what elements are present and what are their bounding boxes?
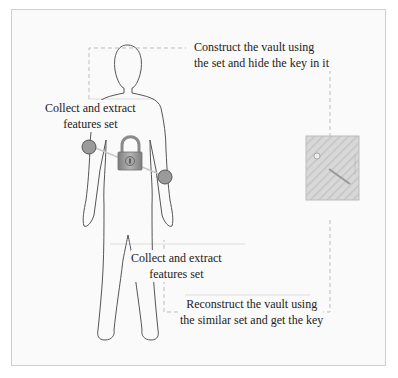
padlock-icon (118, 137, 142, 170)
collect-features-label-top: Collect and extract features set (45, 100, 136, 132)
feature-point-icon (82, 140, 96, 154)
human-body-outline (83, 45, 173, 340)
collect-features-label-bottom: Collect and extract features set (131, 250, 222, 282)
feature-point-icon (158, 170, 172, 184)
construct-vault-label: Construct the vault using the set and hi… (192, 39, 331, 71)
reconstruct-vault-label: Reconstruct the vault using the similar … (180, 296, 323, 328)
vault-key-icon (306, 136, 359, 200)
